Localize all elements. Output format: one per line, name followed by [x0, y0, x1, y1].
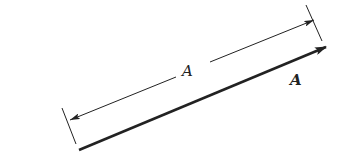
- vector-arrow: [79, 47, 326, 150]
- vector-magnitude-diagram: A A: [0, 0, 345, 157]
- dimension-line-right-arrow: [210, 20, 314, 62]
- vector-label: A: [288, 71, 302, 89]
- magnitude-label: A: [180, 62, 193, 80]
- extension-tick-right: [306, 5, 322, 41]
- dimension-line-left-arrow: [70, 77, 176, 120]
- extension-tick-left: [62, 108, 76, 144]
